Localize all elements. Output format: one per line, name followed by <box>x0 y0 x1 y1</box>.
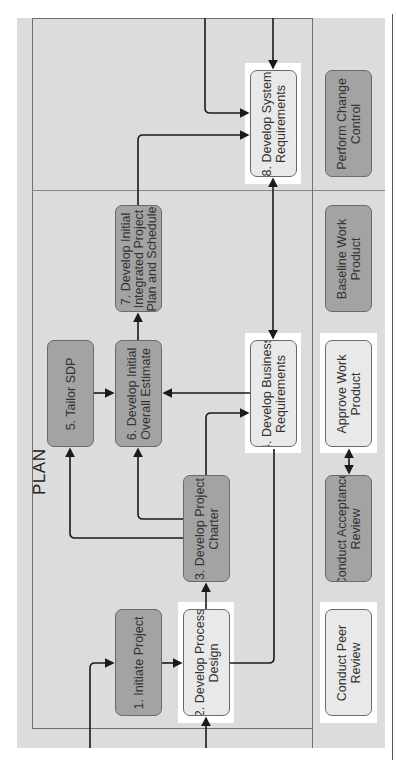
step-label: Approve Work Product <box>335 354 363 433</box>
step-label: 3. Develop Project Charter <box>193 477 221 579</box>
conduct-acceptance-review[interactable]: Conduct Acceptance Review <box>325 475 372 582</box>
step-4-develop-business-requirements[interactable]: 4. Develop Business Requirements <box>250 340 297 447</box>
step-6-develop-initial-overall-estimate[interactable]: 6. Develop Initial Overall Estimate <box>115 340 162 447</box>
conduct-peer-review[interactable]: Conduct Peer Review <box>325 609 372 716</box>
step-label: 5. Tailor SDP <box>64 357 78 430</box>
step-label: Baseline Work Product <box>335 218 363 298</box>
step-1-initiate-project[interactable]: 1. Initiate Project <box>115 609 162 716</box>
step-7-develop-integrated-plan[interactable]: 7. Develop Initial Integrated Project Pl… <box>115 205 162 312</box>
step-5-tailor-sdp[interactable]: 5. Tailor SDP <box>47 340 94 447</box>
step-label: Conduct Acceptance Review <box>335 475 363 582</box>
step-label: 7. Develop Initial Integrated Project Pl… <box>119 206 158 311</box>
step-label: Perform Change Control <box>335 78 363 170</box>
perform-change-control[interactable]: Perform Change Control <box>325 70 372 177</box>
step-label: Conduct Peer Review <box>335 624 363 700</box>
step-label: 4. Develop Business Requirements <box>260 340 288 447</box>
step-2-develop-process-design[interactable]: 2. Develop Process Design <box>183 609 230 716</box>
step-label: 6. Develop Initial Overall Estimate <box>125 347 153 439</box>
step-label: 2. Develop Process Design <box>193 609 221 716</box>
baseline-work-product[interactable]: Baseline Work Product <box>325 205 372 312</box>
step-label: 8. Develop System Requirements <box>260 71 288 176</box>
step-label: 1. Initiate Project <box>132 616 146 709</box>
approve-work-product[interactable]: Approve Work Product <box>325 340 372 447</box>
step-8-develop-system-requirements[interactable]: 8. Develop System Requirements <box>250 70 297 177</box>
step-3-develop-project-charter[interactable]: 3. Develop Project Charter <box>183 475 230 582</box>
